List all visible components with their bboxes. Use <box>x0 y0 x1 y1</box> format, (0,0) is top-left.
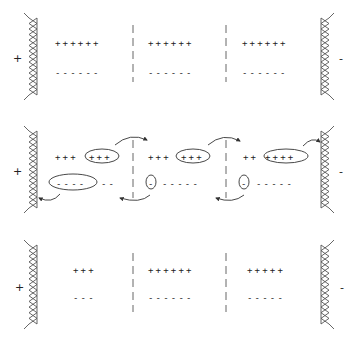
transfer-arrow-icon <box>303 140 320 146</box>
panel2-seg3-minus: ----- <box>256 180 294 189</box>
transfer-arrow-icon <box>120 195 150 200</box>
right-electrode-label: - <box>339 166 343 177</box>
panel1-seg3-plus: ++++++ <box>242 39 288 48</box>
left-electrode-label: + <box>13 53 22 64</box>
right-electrode-label: - <box>339 53 343 64</box>
left-electrode-label: + <box>13 166 22 177</box>
panel2-seg3-plus: ++ <box>243 153 258 162</box>
left-electrode-label: + <box>15 282 24 293</box>
panel2-seg3-plus-group: ++++ <box>265 153 295 162</box>
panel3-seg1-plus: +++ <box>73 266 96 275</box>
panel2-seg2-minus-group: - <box>148 180 156 189</box>
panel1-seg3-minus: ------ <box>242 69 288 78</box>
right-electrode-label: - <box>340 282 344 293</box>
transfer-arrow-icon <box>216 195 244 200</box>
panel3-seg3-plus: +++++ <box>247 266 285 275</box>
panel3-seg2-plus: ++++++ <box>148 266 194 275</box>
panel1-seg2-plus: ++++++ <box>148 39 194 48</box>
panel2-seg3-minus-group: - <box>241 180 249 189</box>
transfer-arrow-icon <box>115 137 147 145</box>
left-electrode <box>24 126 37 213</box>
panel2-seg1-plus: +++ <box>55 153 78 162</box>
panel2-seg2-plus: +++ <box>148 153 171 162</box>
panel3-seg1-minus: --- <box>73 294 96 303</box>
panel2-seg1-plus-group: +++ <box>89 153 112 162</box>
panel1-seg1-plus: ++++++ <box>55 39 101 48</box>
panel2-seg1-minus-group: ---- <box>56 180 86 189</box>
panel3-seg2-minus: ------ <box>148 294 194 303</box>
panel1-seg1-minus: ------ <box>55 69 101 78</box>
right-electrode <box>321 13 334 100</box>
transfer-arrow-icon <box>39 194 60 200</box>
left-electrode <box>24 13 37 100</box>
panel2-seg2-minus: ----- <box>162 180 200 189</box>
right-electrode <box>321 240 334 329</box>
panel2-seg1-minus: -- <box>101 180 116 189</box>
panel3-seg3-minus: ----- <box>247 294 285 303</box>
transfer-arrow-icon <box>208 137 240 145</box>
panel2-seg2-plus-group: +++ <box>181 153 204 162</box>
panel1-seg2-minus: ------ <box>148 69 194 78</box>
left-electrode <box>24 240 37 329</box>
right-electrode <box>321 126 334 213</box>
